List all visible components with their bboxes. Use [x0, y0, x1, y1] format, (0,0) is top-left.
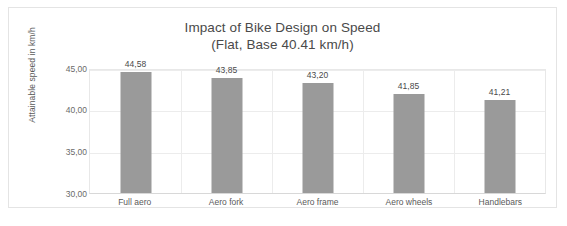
chart-card: Impact of Bike Design on Speed (Flat, Ba…: [8, 7, 557, 208]
bar-slot: 41,21: [454, 70, 545, 193]
bar-value-label: 41,85: [398, 81, 419, 91]
bar[interactable]: [302, 83, 333, 193]
y-axis-tick-labels: 45,00 40,00 35,00 30,00: [33, 8, 87, 207]
y-tick-label: 40,00: [53, 105, 87, 115]
bar[interactable]: [393, 94, 424, 193]
bar-slot: 41,85: [363, 70, 454, 193]
chart-title-line-1: Impact of Bike Design on Speed: [185, 20, 381, 35]
y-tick-label: 45,00: [53, 64, 87, 74]
bar-value-label: 44,58: [125, 59, 146, 69]
bar-slot: 43,20: [272, 70, 363, 193]
bar-slot: 43,85: [181, 70, 272, 193]
bar-value-label: 41,21: [489, 87, 510, 97]
bar[interactable]: [484, 100, 515, 193]
bar[interactable]: [120, 72, 151, 194]
x-category-label: Aero fork: [180, 197, 271, 207]
x-category-label: Aero frame: [272, 197, 363, 207]
plot-area: 44,58 43,85 43,20 41,85 41,21: [89, 69, 546, 194]
chart-title: Impact of Bike Design on Speed (Flat, Ba…: [9, 20, 556, 53]
x-category-label: Aero wheels: [363, 197, 454, 207]
x-category-label: Handlebars: [455, 197, 546, 207]
y-tick-label: 30,00: [53, 189, 87, 199]
bar-slot: 44,58: [90, 70, 181, 193]
bar-value-label: 43,85: [216, 65, 237, 75]
x-category-label: Full aero: [89, 197, 180, 207]
x-axis-category-labels: Full aero Aero fork Aero frame Aero whee…: [89, 197, 546, 207]
bar-value-label: 43,20: [307, 70, 328, 80]
y-tick-label: 35,00: [53, 147, 87, 157]
bars-layer: 44,58 43,85 43,20 41,85 41,21: [90, 70, 545, 193]
bar[interactable]: [211, 78, 242, 193]
chart-title-line-2: (Flat, Base 40.41 km/h): [9, 37, 556, 54]
